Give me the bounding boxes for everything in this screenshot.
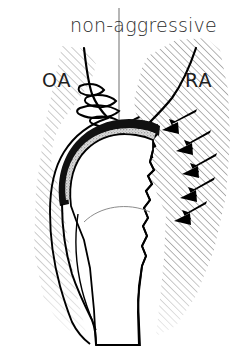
non-aggressive-oa-ra-illustration: non-aggressive OA RA bbox=[0, 0, 238, 355]
page-title-left: non-aggressive bbox=[70, 14, 217, 36]
label-ra: RA bbox=[185, 69, 212, 91]
diagram-canvas: non-aggressive OA RA bbox=[0, 0, 238, 355]
label-oa: OA bbox=[42, 69, 72, 91]
